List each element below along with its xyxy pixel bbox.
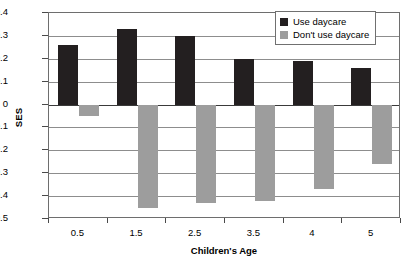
- bar-dont-use-daycare-0.5: [79, 105, 99, 116]
- legend-label-dont-use-daycare: Don't use daycare: [293, 30, 369, 40]
- y-tick-label: 0.2: [0, 53, 8, 63]
- bar-use-daycare-0.5: [58, 45, 78, 105]
- y-tick-label: -0.2: [0, 144, 8, 154]
- x-tick-mark: [107, 218, 108, 223]
- y-tick-mark: [42, 172, 48, 173]
- y-tick-label: 0.3: [0, 30, 8, 40]
- bar-use-daycare-4: [293, 61, 313, 104]
- y-tick-mark: [42, 58, 48, 59]
- y-tick-label: -0.4: [0, 190, 8, 200]
- y-axis-title: SES: [13, 88, 24, 148]
- x-tick-label: 5: [341, 228, 401, 238]
- bar-use-daycare-3.5: [234, 59, 254, 105]
- chart-legend: Use daycare Don't use daycare: [275, 11, 376, 45]
- y-tick-mark: [42, 195, 48, 196]
- y-tick-label: -0.1: [0, 121, 8, 131]
- x-tick-mark: [283, 218, 284, 223]
- bar-dont-use-daycare-3.5: [255, 105, 275, 201]
- y-tick-label: -0.3: [0, 167, 8, 177]
- x-tick-mark: [341, 218, 342, 223]
- bar-use-daycare-1.5: [117, 29, 137, 105]
- x-tick-mark: [224, 218, 225, 223]
- x-tick-label: 0.5: [47, 228, 107, 238]
- bar-dont-use-daycare-2.5: [196, 105, 216, 203]
- y-tick-mark: [42, 81, 48, 82]
- y-tick-mark: [42, 104, 48, 105]
- y-tick-label: 0.1: [0, 76, 8, 86]
- x-tick-label: 2.5: [165, 228, 225, 238]
- bar-chart: 0.40.30.20.10-0.1-0.2-0.3-0.4-0.5 SES 0.…: [0, 0, 412, 267]
- legend-swatch-use-daycare: [280, 18, 288, 26]
- x-tick-label: 1.5: [106, 228, 166, 238]
- y-tick-mark: [42, 126, 48, 127]
- x-tick-mark: [400, 218, 401, 223]
- y-tick-label: -0.5: [0, 213, 8, 223]
- y-tick-mark: [42, 35, 48, 36]
- legend-item-dont-use-daycare: Don't use daycare: [280, 28, 369, 41]
- x-tick-label: 4: [282, 228, 342, 238]
- bar-dont-use-daycare-5: [372, 105, 392, 165]
- x-tick-label: 3.5: [223, 228, 283, 238]
- bar-dont-use-daycare-4: [314, 105, 334, 190]
- x-axis-title: Children's Age: [48, 245, 400, 256]
- bar-use-daycare-2.5: [175, 36, 195, 105]
- y-tick-label: 0: [0, 99, 8, 109]
- legend-item-use-daycare: Use daycare: [280, 15, 369, 28]
- x-tick-mark: [48, 218, 49, 223]
- y-tick-mark: [42, 149, 48, 150]
- bar-dont-use-daycare-1.5: [138, 105, 158, 208]
- bar-use-daycare-5: [351, 68, 371, 105]
- y-tick-mark: [42, 12, 48, 13]
- legend-swatch-dont-use-daycare: [280, 31, 288, 39]
- y-tick-label: 0.4: [0, 7, 8, 17]
- x-tick-mark: [165, 218, 166, 223]
- legend-label-use-daycare: Use daycare: [293, 17, 346, 27]
